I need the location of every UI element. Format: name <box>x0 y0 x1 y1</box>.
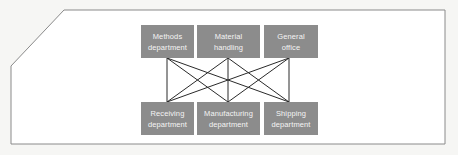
node-manufacturing-department: Manufacturing department <box>197 102 260 135</box>
node-label-line2: department <box>148 42 187 53</box>
node-label-line1: Manufacturing <box>204 108 253 119</box>
diagram-canvas: Methods department Material handling Gen… <box>0 0 458 155</box>
node-label-line1: Shipping <box>276 108 306 119</box>
node-label-line2: handling <box>214 42 243 53</box>
node-label-line2: office <box>282 42 300 53</box>
node-shipping-department: Shipping department <box>264 102 318 135</box>
node-material-handling: Material handling <box>197 25 260 58</box>
node-label-line1: Receiving <box>151 108 185 119</box>
node-label-line1: General <box>277 31 304 42</box>
node-label-line2: department <box>272 119 311 130</box>
node-methods-department: Methods department <box>141 25 194 58</box>
node-label-line1: Material <box>215 31 242 42</box>
node-label-line2: department <box>209 119 248 130</box>
node-receiving-department: Receiving department <box>141 102 194 135</box>
node-general-office: General office <box>264 25 318 58</box>
node-label-line2: department <box>148 119 187 130</box>
node-label-line1: Methods <box>153 31 182 42</box>
